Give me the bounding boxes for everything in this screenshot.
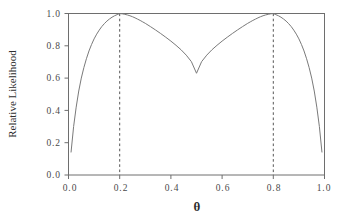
x-tick-label-2: 0.4 xyxy=(165,183,180,193)
x-tick-label-4: 0.8 xyxy=(267,183,282,193)
x-tick-label-0: 0.0 xyxy=(63,183,78,193)
likelihood-curve xyxy=(71,14,322,153)
x-tick-label-3: 0.6 xyxy=(216,183,231,193)
y-axis-title: Relative Likelihood xyxy=(6,50,18,138)
y-tick-label-4: 0.8 xyxy=(46,41,61,51)
reference-lines xyxy=(120,14,274,176)
plot-canvas: 0.0 0.2 0.4 0.6 0.8 1.0 0.0 0.2 0.4 0.6 … xyxy=(0,0,339,221)
likelihood-plot-figure: 0.0 0.2 0.4 0.6 0.8 1.0 0.0 0.2 0.4 0.6 … xyxy=(0,0,339,221)
y-axis-tick-labels: 0.0 0.2 0.4 0.6 0.8 1.0 xyxy=(46,9,61,181)
y-tick-label-0: 0.0 xyxy=(46,170,61,180)
x-tick-label-1: 0.2 xyxy=(114,183,129,193)
x-tick-label-5: 1.0 xyxy=(317,183,332,193)
y-tick-label-2: 0.4 xyxy=(46,106,61,116)
x-axis-ticks xyxy=(69,175,325,179)
y-tick-label-5: 1.0 xyxy=(46,9,61,19)
y-tick-label-1: 0.2 xyxy=(46,138,61,148)
plot-frame xyxy=(69,14,325,176)
y-tick-label-3: 0.6 xyxy=(46,73,61,83)
x-axis-tick-labels: 0.0 0.2 0.4 0.6 0.8 1.0 xyxy=(63,183,332,193)
x-axis-title: θ xyxy=(194,199,201,214)
y-axis-ticks xyxy=(65,14,69,176)
